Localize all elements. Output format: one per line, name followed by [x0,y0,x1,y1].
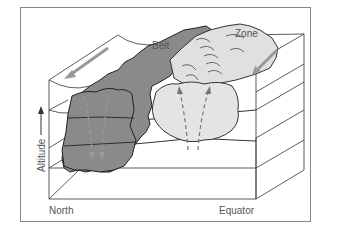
altitude-label: Altitude [36,138,47,172]
zone-label: Zone [235,28,258,39]
zone-front-region [152,82,238,142]
north-label: North [49,205,73,216]
altitude-arrow-icon [38,106,44,135]
belt-label: Belt [152,40,169,51]
belt-zone-diagram: Belt Zone Altitude North Equator [0,0,337,247]
westward-flow-arrow [64,48,108,79]
equator-label: Equator [219,205,255,216]
belt-front-block [62,88,136,172]
